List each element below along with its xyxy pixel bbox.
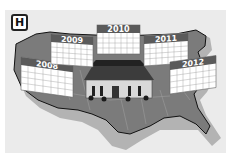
us-map-illustration: 2008 2009 2010 2011 bbox=[0, 0, 235, 161]
calendar-2010: 2010 bbox=[97, 25, 140, 54]
svg-text:2010: 2010 bbox=[107, 25, 130, 34]
svg-text:2009: 2009 bbox=[61, 35, 84, 46]
letter-badge: H bbox=[11, 14, 28, 31]
calendar-2012: 2012 bbox=[170, 56, 216, 94]
calendar-2009: 2009 bbox=[51, 34, 93, 67]
white-house bbox=[84, 60, 154, 102]
